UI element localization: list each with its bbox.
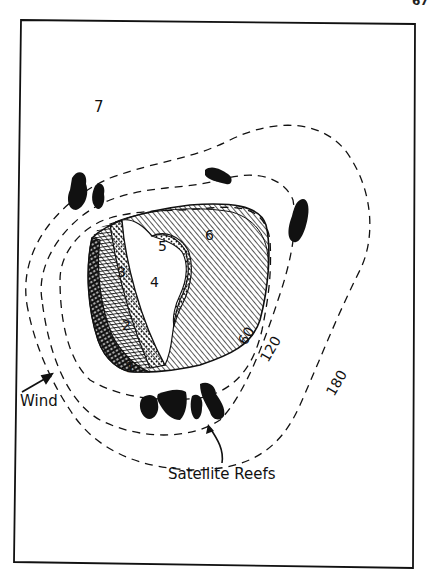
zone-label-2: 2 (122, 317, 131, 333)
zone-label-7: 7 (94, 98, 104, 116)
wind-arrow-icon (22, 374, 52, 392)
satellite-reefs-pointer-icon (210, 428, 222, 463)
satellite-reef-nw-1 (68, 172, 87, 210)
contour-label-180: 180 (323, 367, 350, 398)
reef-diagram: Wind Satellite Reefs 1 2 3 4 5 6 7 60 12… (0, 0, 428, 582)
satellite-reef-s-1 (140, 395, 158, 419)
wind-label: Wind (20, 392, 58, 410)
contour-label-120: 120 (257, 333, 284, 364)
satellite-reef-nw-2 (92, 184, 104, 209)
zone-label-1: 1 (126, 359, 135, 375)
zone-label-6: 6 (205, 227, 214, 243)
zone-label-5: 5 (158, 238, 167, 254)
satellite-reefs-label: Satellite Reefs (168, 465, 276, 483)
zone-label-4: 4 (150, 274, 159, 290)
satellite-reef-e (289, 199, 309, 242)
satellite-reef-s-4 (200, 383, 224, 420)
satellite-reef-s-3 (191, 395, 203, 420)
zone-label-3: 3 (117, 264, 126, 280)
satellite-reef-s-2 (157, 390, 187, 420)
